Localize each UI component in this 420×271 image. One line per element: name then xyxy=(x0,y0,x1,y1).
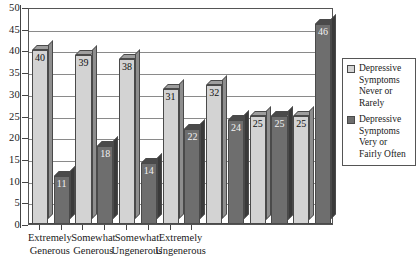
x-axis-category-label: ExtremelyUngenerous xyxy=(136,232,226,257)
legend-label-line: Symptoms xyxy=(359,75,401,87)
bar-side-face xyxy=(266,106,271,220)
x-category-line: Extremely xyxy=(136,232,226,245)
bar-value-label: 22 xyxy=(184,131,200,142)
gridline xyxy=(29,52,332,53)
bar: 38 xyxy=(119,59,135,224)
bar-side-face xyxy=(309,106,314,220)
bar: 25 xyxy=(250,116,266,225)
bar-side-face xyxy=(157,153,162,219)
bar-value-label: 46 xyxy=(315,26,331,37)
y-axis-tick: 45 xyxy=(0,30,28,31)
legend-swatch xyxy=(347,116,355,124)
bar-front-face xyxy=(228,120,244,224)
y-tick-label: 50 xyxy=(9,1,20,14)
x-axis-tick xyxy=(104,225,105,230)
bar-front-face xyxy=(32,50,48,224)
y-tick-label: 5 xyxy=(15,196,20,209)
bar-front-face xyxy=(206,85,222,224)
bar-value-label: 25 xyxy=(293,118,309,129)
x-axis-tick xyxy=(82,225,83,230)
bar-side-face xyxy=(92,45,97,219)
legend-item: DepressiveSymptomsNever orRarely xyxy=(347,63,412,109)
bar-side-face xyxy=(222,75,227,219)
x-axis: ExtremelyGenerousSomewhatGenerousSomewha… xyxy=(28,225,333,271)
x-axis-tick xyxy=(191,225,192,230)
y-axis-tick: 5 xyxy=(0,203,28,204)
bar-front-face xyxy=(184,129,200,224)
gridline xyxy=(29,31,332,32)
bar-value-label: 31 xyxy=(163,91,179,102)
legend-label: DepressiveSymptomsNever orRarely xyxy=(359,63,401,109)
y-tick-label: 20 xyxy=(9,131,20,144)
bar-value-label: 11 xyxy=(54,178,70,189)
bar-value-label: 32 xyxy=(206,87,222,98)
y-tick-label: 30 xyxy=(9,88,20,101)
bar-value-label: 25 xyxy=(271,118,287,129)
bar: 46 xyxy=(315,24,331,224)
x-axis-tick xyxy=(126,225,127,230)
bar-value-label: 18 xyxy=(97,148,113,159)
y-tick-label: 0 xyxy=(15,218,20,231)
x-axis-tick xyxy=(148,225,149,230)
legend-label-line: Very or xyxy=(359,137,406,149)
y-axis-tick: 40 xyxy=(0,51,28,52)
y-tick-label: 40 xyxy=(9,44,20,57)
y-axis-tick: 50 xyxy=(0,8,28,9)
legend-label-line: Depressive xyxy=(359,63,401,75)
legend-swatch xyxy=(347,65,355,73)
bar-value-label: 40 xyxy=(32,52,48,63)
bar-side-face xyxy=(113,136,118,219)
bar: 24 xyxy=(228,120,244,224)
chart-legend: DepressiveSymptomsNever orRarelyDepressi… xyxy=(342,58,416,166)
bar: 11 xyxy=(54,176,70,224)
bar: 25 xyxy=(293,116,309,225)
y-axis-tick: 20 xyxy=(0,138,28,139)
bar-front-face xyxy=(293,116,309,225)
bar-front-face xyxy=(163,89,179,224)
y-axis: 05101520253035404550 xyxy=(0,8,28,225)
bar: 18 xyxy=(97,146,113,224)
legend-label-line: Fairly Often xyxy=(359,149,406,161)
bar-side-face xyxy=(244,110,249,219)
bar: 22 xyxy=(184,129,200,224)
bar: 31 xyxy=(163,89,179,224)
bar-side-face xyxy=(288,106,293,220)
x-axis-tick xyxy=(61,225,62,230)
bar-value-label: 38 xyxy=(119,61,135,72)
bar: 40 xyxy=(32,50,48,224)
bar-side-face xyxy=(331,14,336,219)
bar-side-face xyxy=(135,49,140,219)
y-axis-tick: 0 xyxy=(0,225,28,226)
legend-label-line: Depressive xyxy=(359,114,406,126)
y-axis-tick: 30 xyxy=(0,95,28,96)
x-axis-tick xyxy=(39,225,40,230)
bar-front-face xyxy=(315,24,331,224)
bars-layer: 4011391838143122322425252546 xyxy=(29,9,332,224)
bar-side-face xyxy=(179,79,184,219)
bar: 25 xyxy=(271,116,287,225)
x-category-line: Ungenerous xyxy=(136,245,226,258)
y-tick-label: 35 xyxy=(9,66,20,79)
y-axis-tick: 15 xyxy=(0,160,28,161)
legend-label: DepressiveSymptomsVery orFairly Often xyxy=(359,114,406,160)
bar-front-face xyxy=(119,59,135,224)
bar: 32 xyxy=(206,85,222,224)
legend-label-line: Symptoms xyxy=(359,126,406,138)
bar-front-face xyxy=(250,116,266,225)
bar-side-face xyxy=(200,119,205,219)
bar-front-face xyxy=(75,55,91,224)
legend-label-line: Never or xyxy=(359,86,401,98)
plot-area: 4011391838143122322425252546 xyxy=(28,8,333,225)
y-axis-tick: 10 xyxy=(0,182,28,183)
grouped-bar-chart: 05101520253035404550 4011391838143122322… xyxy=(0,0,420,271)
bar: 14 xyxy=(141,163,157,224)
bar-side-face xyxy=(70,166,75,219)
y-tick-label: 10 xyxy=(9,175,20,188)
bar-front-face xyxy=(271,116,287,225)
y-axis-tick: 35 xyxy=(0,73,28,74)
legend-label-line: Rarely xyxy=(359,98,401,110)
bar: 39 xyxy=(75,55,91,224)
x-axis-tick xyxy=(170,225,171,230)
bar-value-label: 25 xyxy=(250,118,266,129)
y-tick-label: 45 xyxy=(9,23,20,36)
